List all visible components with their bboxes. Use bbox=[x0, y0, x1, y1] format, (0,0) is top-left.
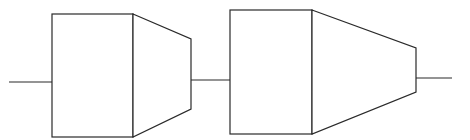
diagram-canvas bbox=[0, 0, 470, 140]
stage-1 bbox=[52, 14, 191, 137]
stage-1-taper bbox=[133, 14, 191, 137]
stage-2 bbox=[230, 10, 416, 134]
stage-1-rectangle bbox=[52, 14, 133, 137]
stage-2-taper bbox=[312, 10, 416, 134]
stage-2-rectangle bbox=[230, 10, 312, 134]
